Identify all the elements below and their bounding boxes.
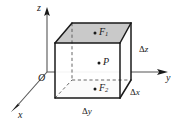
point-marker-f1 <box>94 32 97 35</box>
point-marker-p <box>98 62 101 65</box>
point-label-f1: F1 <box>99 27 108 38</box>
z-axis-label: z <box>37 3 41 13</box>
point-label-f2-subscript: 2 <box>105 86 108 93</box>
dimension-label-delta-x: Δx <box>130 88 140 97</box>
delta-y-variable: y <box>88 106 92 116</box>
cube-group <box>55 23 131 98</box>
x-axis-label: x <box>18 110 22 120</box>
delta-z-variable: z <box>145 44 149 54</box>
point-label-f1-subscript: 1 <box>105 30 108 37</box>
point-marker-f2 <box>94 88 97 91</box>
delta-x-variable: x <box>136 87 140 97</box>
cube-top-face <box>55 23 131 43</box>
volume-element-figure: z y x O F1 P F2 Δz Δx Δy <box>0 0 182 125</box>
cube-front-face <box>55 43 120 98</box>
point-label-p: P <box>103 57 109 67</box>
y-axis-label: y <box>166 73 170 83</box>
dimension-label-delta-z: Δz <box>139 45 148 54</box>
dimension-label-delta-y: Δy <box>82 107 92 116</box>
origin-label: O <box>38 73 45 83</box>
point-label-f2: F2 <box>99 83 108 94</box>
